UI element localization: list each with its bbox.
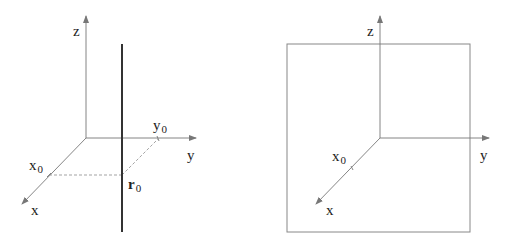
z-label: z <box>73 23 80 39</box>
r0-label: r0 <box>128 176 142 194</box>
x0-label: x0 <box>29 157 44 175</box>
x-label: x <box>326 202 334 218</box>
y-label: y <box>187 147 195 163</box>
left-figure: z y x x0 y0 r0 <box>22 16 196 232</box>
x-label: x <box>31 202 39 218</box>
y-label: y <box>480 147 488 163</box>
x0-label: x0 <box>332 148 347 166</box>
z-label: z <box>367 23 374 39</box>
y0-projection-line <box>122 139 158 175</box>
y0-label: y0 <box>153 117 168 135</box>
y0-tick <box>157 136 159 141</box>
right-figure: z y x x0 <box>287 16 489 232</box>
diagram-canvas: z y x x0 y0 r0 z y x x0 <box>0 0 507 249</box>
x-axis <box>316 138 380 204</box>
